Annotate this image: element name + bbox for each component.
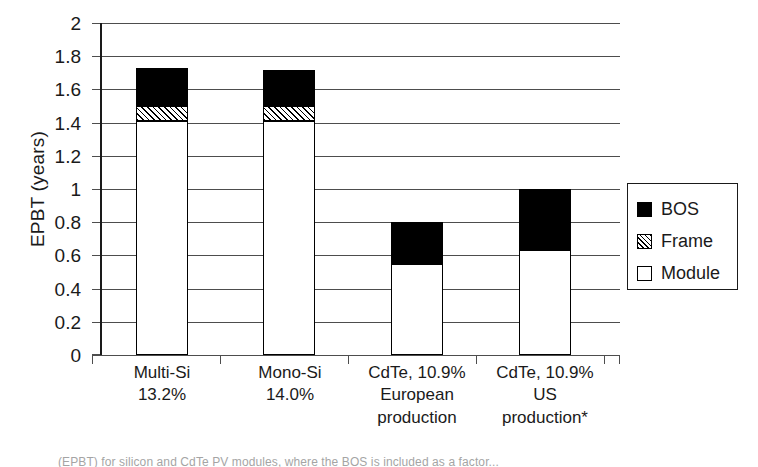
legend-label: Frame: [661, 232, 713, 250]
figure-caption: (EPBT) for silicon and CdTe PV modules, …: [0, 455, 758, 467]
y-tick-mark: [92, 23, 100, 24]
figure-caption-text: (EPBT) for silicon and CdTe PV modules, …: [0, 455, 758, 467]
bar-segment-module[interactable]: [391, 264, 443, 355]
black-swatch-icon: [637, 202, 652, 217]
y-tick-label: 1.2: [25, 146, 81, 165]
y-tick-label: 0.2: [25, 312, 81, 331]
category-line: Mono-Si: [220, 362, 360, 384]
x-tick-mark: [619, 355, 620, 364]
legend-item-frame[interactable]: Frame: [637, 225, 737, 257]
gridline: [100, 56, 620, 57]
y-axis-line: [100, 23, 102, 355]
y-tick-mark: [92, 222, 100, 223]
x-category-label-mono-si: Mono-Si 14.0%: [220, 362, 360, 407]
category-line: US: [475, 384, 615, 406]
bar-segment-module[interactable]: [136, 121, 188, 355]
y-tick-mark: [92, 322, 100, 323]
y-tick-label: 1.8: [25, 47, 81, 66]
bar-segment-frame[interactable]: [263, 106, 315, 121]
y-tick-label: 1.6: [25, 80, 81, 99]
bar-segment-module[interactable]: [519, 250, 571, 355]
legend-item-bos[interactable]: BOS: [637, 193, 737, 225]
bar-segment-module[interactable]: [263, 121, 315, 355]
bar-segment-bos[interactable]: [391, 222, 443, 264]
y-tick-label: 0.8: [25, 213, 81, 232]
category-line: CdTe, 10.9%: [347, 362, 487, 384]
y-tick-label: 2: [25, 14, 81, 33]
chart-legend: BOS Frame Module: [627, 183, 738, 290]
chart-figure: EPBT (years) 2 1.8 1.6 1.4 1.2 1 0.8 0.6…: [0, 0, 758, 467]
y-tick-label: 0.6: [25, 246, 81, 265]
bar-segment-frame[interactable]: [136, 106, 188, 121]
bar-segment-bos[interactable]: [519, 189, 571, 250]
x-category-label-cdte-us: CdTe, 10.9% US production*: [475, 362, 615, 429]
y-tick-mark: [92, 156, 100, 157]
category-line: 14.0%: [220, 384, 360, 406]
x-category-label-multi-si: Multi-Si 13.2%: [92, 362, 232, 407]
y-tick-label: 0.4: [25, 279, 81, 298]
bar-segment-bos[interactable]: [136, 68, 188, 106]
category-line: European: [347, 384, 487, 406]
y-tick-label: 1.4: [25, 113, 81, 132]
white-swatch-icon: [637, 266, 652, 281]
y-tick-mark: [92, 123, 100, 124]
legend-label: BOS: [661, 200, 699, 218]
legend-label: Module: [661, 264, 720, 282]
legend-item-module[interactable]: Module: [637, 257, 737, 289]
hatched-swatch-icon: [637, 234, 652, 249]
category-line: CdTe, 10.9%: [475, 362, 615, 384]
y-tick-mark: [92, 189, 100, 190]
y-axis-tick-labels: 2 1.8 1.6 1.4 1.2 1 0.8 0.6 0.4 0.2 0: [25, 0, 81, 467]
y-tick-mark: [92, 56, 100, 57]
category-line: Multi-Si: [92, 362, 232, 384]
plot-area: [100, 23, 620, 355]
category-line: 13.2%: [92, 384, 232, 406]
y-tick-mark: [92, 89, 100, 90]
y-tick-mark: [92, 255, 100, 256]
x-axis-line: [92, 355, 620, 356]
category-line: production: [347, 407, 487, 429]
gridline: [100, 23, 620, 24]
x-category-label-cdte-european: CdTe, 10.9% European production: [347, 362, 487, 429]
y-tick-label: 1: [25, 180, 81, 199]
y-tick-mark: [92, 289, 100, 290]
category-line: production*: [475, 407, 615, 429]
bar-segment-bos[interactable]: [263, 70, 315, 107]
y-tick-label: 0: [25, 346, 81, 365]
